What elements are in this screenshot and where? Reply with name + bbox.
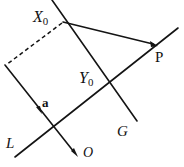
label-x0: X0	[33, 9, 48, 27]
dashed-line-X0-corner	[6, 23, 62, 65]
label-a-vector: a	[42, 96, 49, 109]
line-G-stroke	[52, 0, 137, 121]
segment-X0-to-P	[63, 22, 153, 44]
label-y0-base: Y	[79, 69, 88, 86]
label-l: L	[6, 136, 14, 151]
label-p: P	[155, 50, 163, 65]
figure-canvas: X0 Y0 P G L O a	[0, 0, 184, 167]
label-x0-subscript: 0	[43, 15, 48, 27]
label-o: O	[83, 146, 93, 160]
label-y0-subscript: 0	[88, 76, 93, 88]
label-x0-base: X	[33, 8, 43, 25]
label-g: G	[117, 124, 128, 139]
label-y0: Y0	[79, 70, 93, 88]
line-L-stroke	[15, 28, 178, 157]
